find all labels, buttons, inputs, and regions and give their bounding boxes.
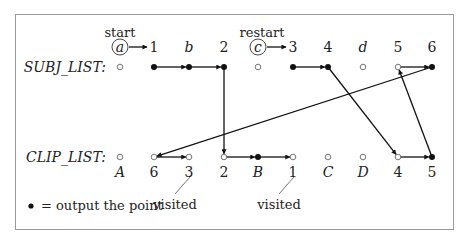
- legend-text: = output the point: [41, 198, 164, 213]
- clip-vertex-label: A: [113, 164, 125, 180]
- subj-label-group: a1b2c34d56: [112, 39, 437, 55]
- subj-vertex-label: b: [185, 39, 194, 55]
- subj-vertex-label: c: [254, 39, 262, 55]
- clip-vertex-label: 5: [428, 164, 437, 180]
- clip-open-point-icon: [290, 154, 296, 160]
- clip-filled-point-icon: [429, 154, 435, 160]
- visited-pointer-2: [279, 177, 294, 194]
- subj-vertex-label: 1: [150, 39, 159, 55]
- clip-list-label: CLIP_LIST:: [26, 149, 106, 166]
- subj-vertex-label: 6: [428, 39, 437, 55]
- clipping-diagram: SUBJ_LIST: CLIP_LIST: start restart a1b2…: [0, 0, 470, 240]
- clip-vertex-label: D: [356, 164, 368, 180]
- subj-filled-point-icon: [290, 64, 296, 70]
- traversal-edge: [328, 67, 396, 154]
- subj-vertex-label: a: [116, 39, 124, 55]
- subj-filled-point-icon: [186, 64, 192, 70]
- subj-vertex-label: 2: [220, 39, 229, 55]
- subj-filled-point-icon: [151, 64, 157, 70]
- clip-filled-point-icon: [255, 154, 261, 160]
- clip-vertex-label: 6: [150, 164, 159, 180]
- subj-open-point-icon: [395, 64, 401, 70]
- subj-vertex-label: 4: [324, 39, 333, 55]
- clip-vertex-label: 2: [220, 164, 229, 180]
- clip-open-point-icon: [186, 154, 192, 160]
- subj-vertex-label: d: [359, 39, 368, 55]
- subj-open-point-icon: [255, 64, 261, 70]
- visited-pointer-1: [175, 177, 190, 194]
- edge-group: [154, 67, 432, 157]
- clip-open-point-icon: [221, 154, 227, 160]
- clip-open-point-icon: [395, 154, 401, 160]
- clip-open-point-icon: [325, 154, 331, 160]
- clip-label-group: A632B1CD45: [113, 164, 437, 180]
- clip-vertex-label: C: [323, 164, 334, 180]
- subj-filled-point-icon: [221, 64, 227, 70]
- subj-vertex-label: 3: [289, 39, 298, 55]
- clip-open-point-icon: [117, 154, 123, 160]
- traversal-edge: [399, 70, 432, 157]
- restart-label: restart: [240, 25, 286, 40]
- clip-vertex-label: 4: [394, 164, 403, 180]
- clip-open-point-icon: [151, 154, 157, 160]
- clip-vertex-label: B: [252, 164, 263, 180]
- subj-vertex-label: 5: [394, 39, 403, 55]
- subj-open-point-icon: [117, 64, 123, 70]
- point-group: [117, 64, 435, 160]
- legend-filled-point-icon: [28, 203, 33, 208]
- visited-label-2: visited: [256, 197, 301, 212]
- traversal-edge: [157, 67, 432, 156]
- clip-open-point-icon: [360, 154, 366, 160]
- subj-filled-point-icon: [325, 64, 331, 70]
- subj-open-point-icon: [360, 64, 366, 70]
- subj-list-label: SUBJ_LIST:: [24, 59, 106, 76]
- start-label: start: [104, 25, 136, 40]
- subj-filled-point-icon: [429, 64, 435, 70]
